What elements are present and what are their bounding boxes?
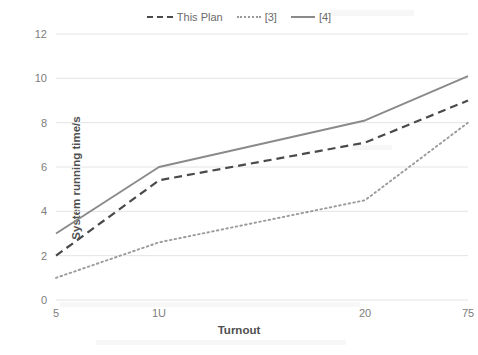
legend-label-ref3: [3] [265,11,277,23]
y-tick-label: 0 [41,294,47,306]
series-line-1 [56,101,468,256]
solid-line-swatch-icon [291,16,315,18]
y-tick-label: 6 [41,161,47,173]
x-tick-label: 20 [359,307,371,319]
y-tick-label: 4 [41,205,47,217]
scan-artifact [60,302,360,307]
chart-legend: This Plan [3] [4] [0,11,478,23]
y-tick-label: 2 [41,250,47,262]
y-tick-label: 10 [35,72,47,84]
series-line-2 [56,123,468,278]
dotted-line-swatch-icon [237,16,261,18]
legend-item-ref3[interactable]: [3] [237,11,277,23]
plot-svg [56,34,468,300]
x-axis-title: Turnout [0,324,478,336]
series-lines [56,76,468,278]
plot-area: 024681012 51U2075 [56,34,468,300]
legend-label-this-plan: This Plan [177,11,223,23]
y-tick-label: 8 [41,117,47,129]
scan-artifact [96,340,346,345]
x-tick-label: 1U [152,307,166,319]
gridlines [56,34,468,300]
legend-item-ref4[interactable]: [4] [291,11,331,23]
x-tick-label: 75 [462,307,474,319]
series-line-3 [56,76,468,233]
x-tick-label: 5 [53,307,59,319]
y-tick-label: 12 [35,28,47,40]
line-chart: This Plan [3] [4] System running time/s … [0,0,478,355]
legend-item-this-plan[interactable]: This Plan [147,11,223,23]
dashed-line-swatch-icon [147,16,173,18]
legend-label-ref4: [4] [319,11,331,23]
